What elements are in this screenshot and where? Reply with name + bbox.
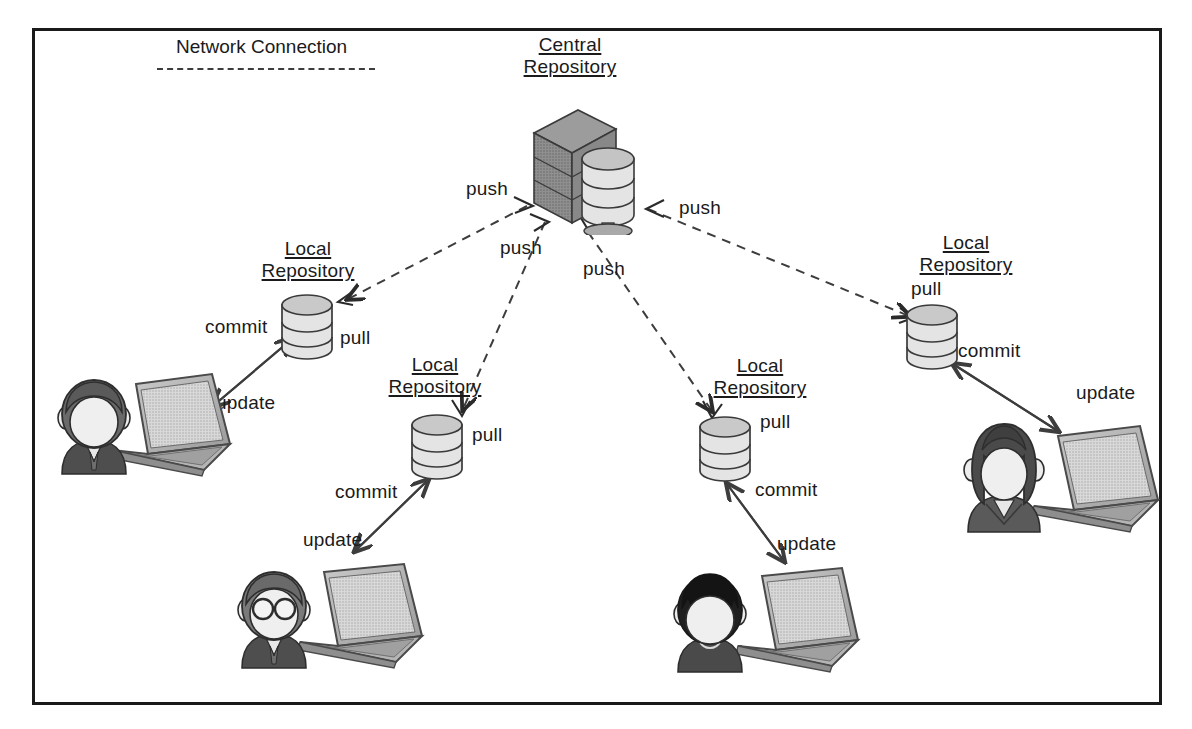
local-repo-icon-lower-right <box>694 415 756 487</box>
central-database-cylinder <box>582 148 634 235</box>
local-repo-icon-right <box>901 303 963 375</box>
local-left-title-line1: Local <box>238 238 378 260</box>
local-right-title-line1: Local <box>896 232 1036 254</box>
workstation-left <box>44 366 249 486</box>
commit-label-left: commit <box>205 316 267 338</box>
legend-label: Network Connection <box>176 36 347 58</box>
local-lr-title-line2: Repository <box>690 377 830 399</box>
local-repo-icon-left <box>276 293 338 365</box>
pull-label-left: pull <box>340 327 370 349</box>
push-label-4: push <box>679 197 721 219</box>
local-repository-title-lower-right: Local Repository <box>690 355 830 400</box>
pull-label-lower-left: pull <box>472 424 502 446</box>
person-avatar-lower-right <box>674 574 746 672</box>
update-label-lower-left: update <box>303 529 362 551</box>
commit-label-lower-right: commit <box>755 479 817 501</box>
laptop-icon-right <box>1032 426 1158 532</box>
local-repository-title-right: Local Repository <box>896 232 1036 277</box>
central-repository-title: Central Repository <box>490 34 650 79</box>
local-ll-title-line1: Local <box>365 354 505 376</box>
legend-dashed-line <box>157 68 375 70</box>
local-right-title-line2: Repository <box>896 254 1036 276</box>
central-server-icon <box>516 105 656 235</box>
workstation-lower-left <box>222 556 437 681</box>
push-label-3: push <box>583 258 625 280</box>
person-avatar-lower-left <box>238 572 310 668</box>
local-left-title-line2: Repository <box>238 260 378 282</box>
pull-label-right: pull <box>911 278 941 300</box>
local-repository-title-left: Local Repository <box>238 238 378 283</box>
local-repo-icon-lower-left <box>406 413 468 485</box>
update-label-lower-right: update <box>777 533 836 555</box>
commit-label-lower-left: commit <box>335 481 397 503</box>
laptop-icon-lower-right <box>736 568 858 672</box>
push-label-1: push <box>466 178 508 200</box>
push-label-2: push <box>500 237 542 259</box>
pull-label-lower-right: pull <box>760 411 790 433</box>
workstation-right <box>946 412 1171 540</box>
local-lr-title-line1: Local <box>690 355 830 377</box>
laptop-icon-lower-left <box>298 564 422 668</box>
local-repository-title-lower-left: Local Repository <box>365 354 505 399</box>
local-ll-title-line2: Repository <box>365 376 505 398</box>
workstation-lower-right <box>636 556 861 684</box>
central-title-line1: Central <box>490 34 650 56</box>
commit-label-right: commit <box>958 340 1020 362</box>
person-avatar-right <box>964 424 1044 532</box>
central-title-line2: Repository <box>490 56 650 78</box>
person-avatar-left <box>58 380 130 474</box>
update-label-right: update <box>1076 382 1135 404</box>
diagram-canvas: Network Connection Central Repository <box>0 0 1192 729</box>
